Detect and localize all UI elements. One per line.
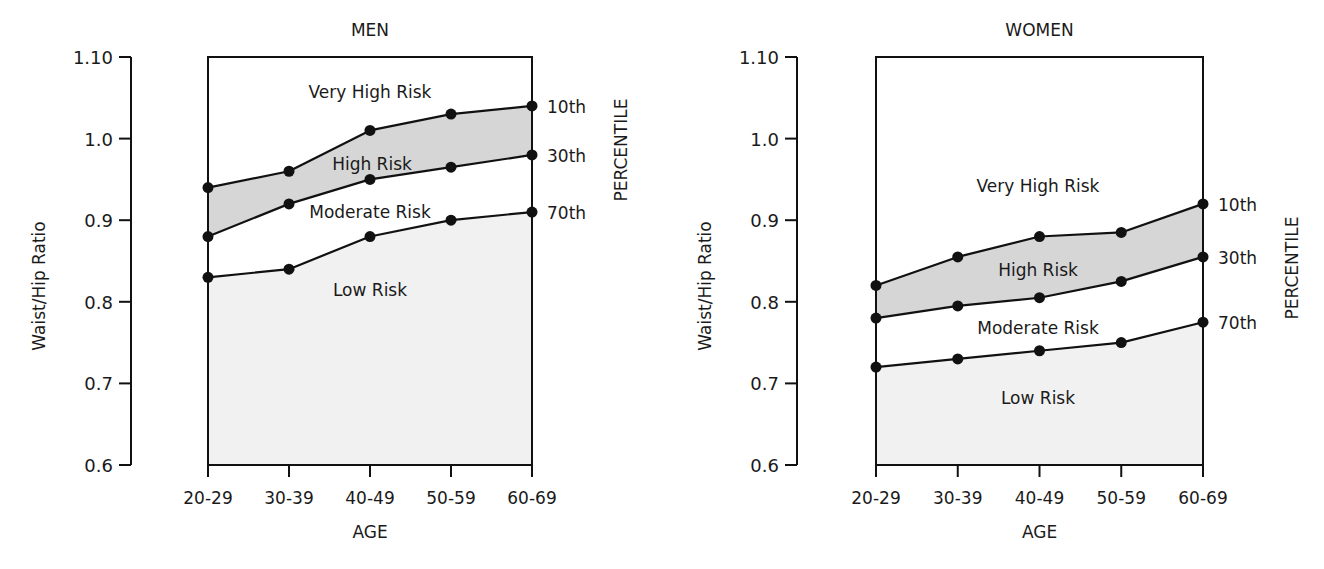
data-point xyxy=(527,100,538,111)
data-point xyxy=(1198,198,1209,209)
data-point xyxy=(446,162,457,173)
data-point xyxy=(365,231,376,242)
data-point xyxy=(871,362,882,373)
data-point xyxy=(1198,317,1209,328)
percentile-label: 70th xyxy=(1218,313,1257,333)
x-tick-label: 50-59 xyxy=(1097,488,1146,508)
x-tick-label: 40-49 xyxy=(345,488,394,508)
risk-region-label: High Risk xyxy=(998,260,1078,280)
data-point xyxy=(1034,292,1045,303)
x-tick-label: 20-29 xyxy=(851,488,900,508)
x-tick-label: 50-59 xyxy=(426,488,475,508)
y-tick-label: 0.8 xyxy=(750,292,779,313)
data-point xyxy=(871,280,882,291)
y-tick-label: 0.6 xyxy=(84,455,113,476)
x-tick-label: 40-49 xyxy=(1015,488,1064,508)
x-axis-label: AGE xyxy=(352,522,387,542)
risk-region-label: Moderate Risk xyxy=(977,318,1099,338)
x-tick-label: 60-69 xyxy=(1178,488,1227,508)
data-point xyxy=(203,272,214,283)
risk-charts-figure: 1.101.00.90.80.70.620-2930-3940-4950-596… xyxy=(0,0,1324,569)
percentile-label: 70th xyxy=(547,203,586,223)
y-tick-label: 0.8 xyxy=(84,292,113,313)
data-point xyxy=(1116,337,1127,348)
risk-region-label: Moderate Risk xyxy=(309,202,431,222)
data-point xyxy=(1198,251,1209,262)
y-tick-label: 1.10 xyxy=(73,47,113,68)
data-point xyxy=(1034,345,1045,356)
data-point xyxy=(952,251,963,262)
chart-women: 1.101.00.90.80.70.620-2930-3940-4950-596… xyxy=(695,20,1302,542)
x-tick-label: 60-69 xyxy=(507,488,556,508)
data-point xyxy=(446,215,457,226)
low-risk-area xyxy=(208,212,532,465)
data-point xyxy=(203,231,214,242)
data-point xyxy=(952,300,963,311)
percentile-axis-label: PERCENTILE xyxy=(611,99,631,202)
y-tick-label: 0.9 xyxy=(84,210,113,231)
data-point xyxy=(365,174,376,185)
chart-men: 1.101.00.90.80.70.620-2930-3940-4950-596… xyxy=(29,20,631,542)
y-axis-label: Waist/Hip Ratio xyxy=(695,221,715,350)
risk-region-label: Low Risk xyxy=(1001,388,1075,408)
x-axis-label: AGE xyxy=(1022,522,1057,542)
data-point xyxy=(952,353,963,364)
data-point xyxy=(1116,276,1127,287)
percentile-label: 10th xyxy=(1218,195,1257,215)
y-tick-label: 1.10 xyxy=(739,47,779,68)
percentile-label: 30th xyxy=(1218,248,1257,268)
y-tick-label: 0.7 xyxy=(750,373,779,394)
percentile-label: 10th xyxy=(547,97,586,117)
data-point xyxy=(527,149,538,160)
y-axis-label: Waist/Hip Ratio xyxy=(29,221,49,350)
y-tick-label: 1.0 xyxy=(750,129,779,150)
y-tick-label: 0.6 xyxy=(750,455,779,476)
risk-region-label: Very High Risk xyxy=(309,82,432,102)
percentile-label: 30th xyxy=(547,146,586,166)
y-tick-label: 0.7 xyxy=(84,373,113,394)
risk-region-label: Very High Risk xyxy=(977,176,1100,196)
data-point xyxy=(284,166,295,177)
y-tick-label: 1.0 xyxy=(84,129,113,150)
data-point xyxy=(203,182,214,193)
waist-hip-ratio-charts: 1.101.00.90.80.70.620-2930-3940-4950-596… xyxy=(0,0,1324,569)
data-point xyxy=(527,207,538,218)
data-point xyxy=(1034,231,1045,242)
data-point xyxy=(284,198,295,209)
chart-title: MEN xyxy=(351,20,389,40)
data-point xyxy=(446,109,457,120)
y-tick-label: 0.9 xyxy=(750,210,779,231)
percentile-axis-label: PERCENTILE xyxy=(1282,217,1302,320)
x-tick-label: 30-39 xyxy=(264,488,313,508)
data-point xyxy=(1116,227,1127,238)
x-tick-label: 30-39 xyxy=(933,488,982,508)
data-point xyxy=(284,264,295,275)
risk-region-label: Low Risk xyxy=(333,280,407,300)
risk-region-label: High Risk xyxy=(332,154,412,174)
x-tick-label: 20-29 xyxy=(183,488,232,508)
data-point xyxy=(365,125,376,136)
chart-title: WOMEN xyxy=(1005,20,1073,40)
data-point xyxy=(871,313,882,324)
